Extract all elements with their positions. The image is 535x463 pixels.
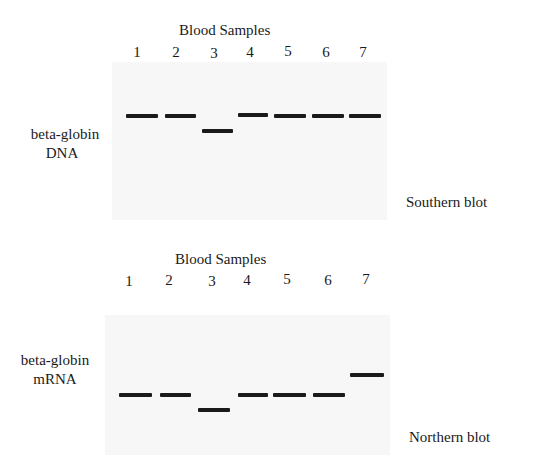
southern-band-lane-2 (165, 114, 196, 118)
southern-band-lane-4 (238, 113, 268, 117)
southern-probe-label: beta-globin DNA (24, 125, 106, 163)
southern-lane-4: 4 (240, 44, 260, 61)
northern-band-lane-1 (119, 393, 152, 397)
southern-lane-5: 5 (278, 43, 298, 60)
northern-lane-2: 2 (159, 272, 179, 289)
southern-band-lane-7 (349, 114, 381, 118)
southern-lane-2: 2 (166, 44, 186, 61)
southern-lane-6: 6 (316, 44, 336, 61)
southern-blot-membrane (112, 62, 387, 220)
southern-title: Blood Samples (179, 22, 270, 39)
northern-band-lane-2 (160, 393, 191, 397)
southern-probe-line1: beta-globin (24, 125, 106, 144)
northern-title: Blood Samples (175, 251, 266, 268)
northern-lane-6: 6 (318, 272, 338, 289)
southern-probe-line2: DNA (18, 144, 106, 163)
southern-lane-7: 7 (353, 44, 373, 61)
northern-band-lane-3 (198, 408, 230, 412)
southern-lane-3: 3 (204, 45, 224, 62)
northern-probe-label: beta-globin mRNA (14, 351, 96, 389)
northern-blot-label: Northern blot (409, 429, 490, 446)
southern-lane-1: 1 (127, 44, 147, 61)
northern-band-lane-6 (313, 393, 345, 397)
southern-band-lane-5 (274, 114, 306, 118)
northern-probe-line1: beta-globin (14, 351, 96, 370)
northern-lane-3: 3 (202, 273, 222, 290)
southern-band-lane-6 (312, 114, 344, 118)
southern-band-lane-3 (202, 129, 233, 133)
northern-blot-membrane (105, 315, 390, 455)
northern-band-lane-5 (273, 393, 306, 397)
northern-lane-7: 7 (356, 271, 376, 288)
southern-band-lane-1 (126, 114, 158, 118)
southern-blot-label: Southern blot (406, 194, 487, 211)
northern-lane-4: 4 (237, 272, 257, 289)
northern-band-lane-4 (238, 393, 268, 397)
northern-band-lane-7 (350, 373, 384, 377)
northern-lane-5: 5 (277, 271, 297, 288)
northern-probe-line2: mRNA (14, 370, 96, 389)
northern-lane-1: 1 (119, 273, 139, 290)
